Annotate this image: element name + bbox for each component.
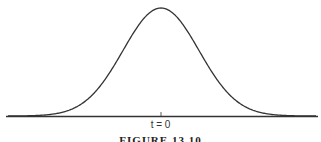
gaussian-curve bbox=[8, 8, 316, 116]
t0-tick-label: t = 0 bbox=[0, 119, 321, 130]
gaussian-figure: t = 0 FIGURE 13.10 bbox=[0, 0, 321, 142]
figure-caption: FIGURE 13.10 bbox=[0, 134, 321, 142]
